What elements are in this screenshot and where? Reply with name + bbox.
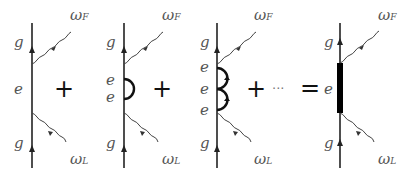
label-omega-l: ωL <box>254 152 272 167</box>
term-dressed <box>337 23 379 168</box>
label-g: g <box>324 35 334 50</box>
label-g: g <box>14 136 24 151</box>
ellipsis: ··· <box>272 82 284 95</box>
label-e: e <box>200 103 209 118</box>
arrow-up-icon <box>29 46 35 53</box>
plus-sign: + <box>54 77 74 101</box>
label-g: g <box>200 136 210 151</box>
label-e: e <box>106 90 115 105</box>
label-g: g <box>324 136 334 151</box>
arrow-up-icon <box>29 145 35 152</box>
label-e: e <box>14 82 23 97</box>
plus-sign: + <box>246 77 266 101</box>
equals-sign: = <box>300 76 320 100</box>
label-omega-l: ωL <box>162 152 180 167</box>
label-e: e <box>106 73 115 88</box>
label-e: e <box>324 82 333 97</box>
label-omega-f: ωF <box>162 8 180 23</box>
label-omega-f: ωF <box>254 8 272 23</box>
label-omega-f: ωF <box>378 8 396 23</box>
plus-sign: + <box>152 77 172 101</box>
label-omega-f: ωF <box>70 8 88 23</box>
label-omega-l: ωL <box>378 152 396 167</box>
label-omega-l: ωL <box>70 152 88 167</box>
label-g: g <box>106 35 116 50</box>
label-e: e <box>200 82 209 97</box>
diagram-canvas: g e g ωF ωL + g e e g ωF ωL + g e e e g … <box>0 0 406 176</box>
label-g: g <box>106 136 116 151</box>
label-g: g <box>14 35 24 50</box>
label-e: e <box>200 60 209 75</box>
label-g: g <box>200 35 210 50</box>
